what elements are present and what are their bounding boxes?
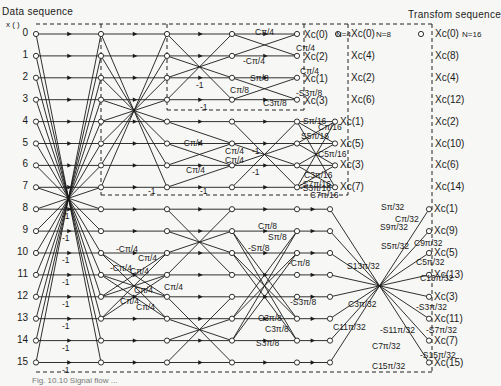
coef-stage1-minus-3: -1 bbox=[62, 277, 70, 287]
flow-node bbox=[164, 119, 169, 124]
output-n16-2: Xc(4) bbox=[435, 73, 459, 83]
flow-node bbox=[164, 141, 169, 146]
flow-node bbox=[33, 316, 38, 321]
flow-node bbox=[327, 294, 332, 299]
coef-n8-5: -1 bbox=[252, 167, 260, 177]
input-index-8: 8 bbox=[8, 203, 28, 213]
flow-node bbox=[33, 207, 38, 212]
coef-n4-8: -1 bbox=[196, 80, 204, 90]
coef-n16-s3-2: -Sπ/8 bbox=[248, 243, 269, 253]
input-index-14: 14 bbox=[8, 335, 28, 345]
coef-n8-7: -1 bbox=[148, 186, 156, 196]
input-index-4: 4 bbox=[8, 116, 28, 126]
flow-node bbox=[229, 97, 234, 102]
coef-stage1-minus-0: -1 bbox=[62, 211, 70, 221]
flow-node bbox=[164, 163, 169, 168]
flow-node bbox=[327, 229, 332, 234]
flow-node bbox=[229, 119, 234, 124]
flow-node bbox=[294, 316, 299, 321]
flow-node bbox=[426, 207, 431, 212]
output-n16-6: Xc(6) bbox=[435, 160, 459, 170]
output-n16-1: Xc(8) bbox=[435, 51, 459, 61]
flow-node bbox=[164, 229, 169, 234]
input-index-3: 3 bbox=[8, 94, 28, 104]
coef-n4-4: Sπ/8 bbox=[250, 73, 269, 83]
coef-n16-s4-6: S13π/32 bbox=[347, 261, 380, 271]
flow-node bbox=[426, 229, 431, 234]
flow-node bbox=[229, 207, 234, 212]
coef-n16-s4-7: C13π/32 bbox=[420, 273, 453, 283]
flow-node bbox=[164, 316, 169, 321]
flow-node bbox=[98, 163, 103, 168]
coef-n16-s2-2: -Cπ/4 bbox=[110, 263, 132, 273]
input-index-9: 9 bbox=[8, 225, 28, 235]
coef-n16-s4-12: -S7π/32 bbox=[426, 325, 457, 335]
flow-node bbox=[426, 316, 431, 321]
coef-n8-0: -Cπ/4 bbox=[181, 138, 203, 148]
output-n16-odd-6: Xc(7) bbox=[434, 336, 458, 346]
input-index-2: 2 bbox=[8, 72, 28, 82]
flow-node bbox=[33, 141, 38, 146]
output-n16-odd-5: Xc(11) bbox=[434, 314, 463, 324]
coef-n8-2: Cπ/4 bbox=[225, 155, 244, 165]
flow-node bbox=[327, 338, 332, 343]
coef-n16-s4-5: C5π/32 bbox=[416, 257, 445, 267]
flow-node bbox=[229, 31, 234, 36]
flow-node bbox=[294, 53, 299, 58]
flow-node bbox=[33, 360, 38, 365]
flow-node bbox=[327, 316, 332, 321]
output-n4-0: Xc(0) bbox=[304, 30, 328, 40]
coef-stage1-minus-2: -1 bbox=[62, 255, 70, 265]
coef-n4-7: C3π/8 bbox=[263, 98, 287, 108]
coef-n16-s4-9: -S3π/32 bbox=[416, 302, 447, 312]
flow-node bbox=[98, 207, 103, 212]
flow-node bbox=[33, 75, 38, 80]
output-n8-0: Xc(0) bbox=[351, 29, 375, 39]
coef-n8-4: -1 bbox=[252, 146, 260, 156]
flow-node bbox=[229, 338, 234, 343]
flow-node bbox=[164, 75, 169, 80]
coef-n16-s4-2: S9π/32 bbox=[380, 222, 408, 232]
coef-n4-2: -Cπ/4 bbox=[243, 56, 265, 66]
flow-node bbox=[164, 360, 169, 365]
flow-node bbox=[294, 272, 299, 277]
coef-stage1-minus-6: -1 bbox=[62, 343, 70, 353]
coef-n16-s3-0: Cπ/8 bbox=[258, 221, 277, 231]
coef-n16-s4-0: Sπ/32 bbox=[381, 202, 404, 212]
flow-node bbox=[229, 316, 234, 321]
output-n16-odd-0: Xc(1) bbox=[434, 204, 458, 214]
flow-node bbox=[229, 250, 234, 255]
coef-n8-14: -S7π/16 bbox=[300, 179, 331, 189]
flow-node bbox=[98, 119, 103, 124]
output-n16-0: Xc(0) bbox=[435, 29, 459, 39]
flow-node bbox=[164, 272, 169, 277]
flow-node bbox=[332, 141, 337, 146]
flow-node bbox=[294, 338, 299, 343]
input-index-13: 13 bbox=[8, 313, 28, 323]
coef-n16-s2-0: -Cπ/4 bbox=[116, 244, 138, 254]
input-index-1: 1 bbox=[8, 50, 28, 60]
input-index-12: 12 bbox=[8, 291, 28, 301]
coef-n16-s4-15: C15π/32 bbox=[372, 361, 405, 371]
coef-n8-11: C5π/16 bbox=[318, 149, 347, 159]
flow-node bbox=[98, 360, 103, 365]
flow-node bbox=[294, 185, 299, 190]
coef-n16-s3-4: -S3π/8 bbox=[290, 297, 316, 307]
flow-node bbox=[229, 229, 234, 234]
coef-n4-9: -1 bbox=[200, 102, 208, 112]
flow-node bbox=[98, 250, 103, 255]
flow-node bbox=[327, 272, 332, 277]
output-n8-odd-3: Xc(7) bbox=[340, 182, 364, 192]
coef-n16-s4-4: S5π/32 bbox=[381, 241, 409, 251]
flow-node bbox=[294, 141, 299, 146]
output-n16-5: Xc(10) bbox=[435, 139, 464, 149]
flow-node bbox=[33, 119, 38, 124]
output-n16-4: Xc(2) bbox=[435, 117, 459, 127]
coef-n8-3: Cπ/4 bbox=[186, 165, 205, 175]
transform-sequence-heading: Transfom sequence bbox=[408, 10, 501, 20]
flow-node bbox=[229, 272, 234, 277]
flow-node bbox=[33, 294, 38, 299]
coef-n16-s4-11: -S11π/32 bbox=[380, 325, 415, 335]
output-n4-label: N=4 bbox=[336, 30, 351, 40]
flow-node bbox=[33, 185, 38, 190]
